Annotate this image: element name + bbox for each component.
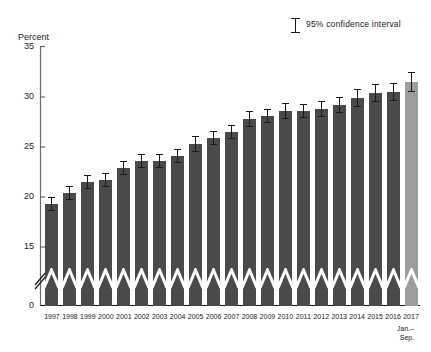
error-bar-1997 — [48, 197, 55, 211]
x-tick-2004: 2004 — [170, 313, 186, 320]
y-tick-35: 35 — [12, 41, 34, 51]
axis-break-zigzag — [332, 268, 347, 292]
axis-break-zigzag — [206, 268, 221, 292]
axis-break-zigzag — [260, 268, 275, 292]
axis-break-zigzag — [188, 268, 203, 292]
error-bar-2003 — [156, 154, 163, 168]
axis-break-zigzag — [170, 268, 185, 292]
axis-break-zigzag — [152, 268, 167, 292]
y-tick-25: 25 — [12, 141, 34, 151]
error-bar-2001 — [120, 161, 127, 175]
x-tick-2007: 2007 — [224, 313, 240, 320]
error-bar-2016 — [390, 83, 397, 101]
x-tick-2016: 2016 — [385, 313, 401, 320]
x-tick-2000: 2000 — [98, 313, 114, 320]
y-tick-0: 0 — [12, 300, 34, 310]
x-axis-sublabel: Jan.– Sep. — [397, 324, 414, 342]
error-bar-2008 — [246, 111, 253, 127]
x-axis-sublabel-line2: Sep. — [397, 333, 414, 342]
axis-break-zigzag — [134, 268, 149, 292]
error-bar-2006 — [210, 131, 217, 145]
error-bar-1999 — [84, 175, 91, 189]
y-tick-30: 30 — [12, 91, 34, 101]
x-tick-2005: 2005 — [188, 313, 204, 320]
x-tick-2001: 2001 — [116, 313, 132, 320]
axis-break-zigzag — [314, 268, 329, 292]
axis-break-zigzag — [98, 268, 113, 292]
x-tick-2013: 2013 — [331, 313, 347, 320]
x-tick-2012: 2012 — [313, 313, 329, 320]
error-bar-2014 — [354, 89, 361, 107]
axis-break-zigzag — [278, 268, 293, 292]
chart-canvas: Percent 95% confidence interval 01520253… — [0, 0, 431, 352]
x-tick-1998: 1998 — [62, 313, 78, 320]
x-tick-2008: 2008 — [242, 313, 258, 320]
axis-break-zigzag — [404, 268, 419, 292]
axis-break-zigzag — [224, 268, 239, 292]
x-tick-2003: 2003 — [152, 313, 168, 320]
y-tick-15: 15 — [12, 241, 34, 251]
x-tick-1999: 1999 — [80, 313, 96, 320]
error-bar-2010 — [282, 103, 289, 119]
error-bar-2002 — [138, 154, 145, 168]
error-bar-2004 — [174, 149, 181, 163]
x-tick-1997: 1997 — [44, 313, 60, 320]
x-tick-2006: 2006 — [206, 313, 222, 320]
error-bar-2000 — [102, 173, 109, 187]
x-tick-2014: 2014 — [349, 313, 365, 320]
x-tick-2009: 2009 — [260, 313, 276, 320]
axis-break-zigzag — [242, 268, 257, 292]
axis-break-zigzag — [62, 268, 77, 292]
axis-break-zigzag — [80, 268, 95, 292]
x-tick-2002: 2002 — [134, 313, 150, 320]
error-bar-2005 — [192, 136, 199, 152]
axis-break-zigzag — [368, 268, 383, 292]
error-bar-2017 — [408, 72, 415, 92]
axis-break-zigzag — [350, 268, 365, 292]
error-bar-2007 — [228, 125, 235, 139]
error-bar-2011 — [300, 104, 307, 118]
error-bar-2012 — [318, 101, 325, 117]
x-tick-2011: 2011 — [296, 313, 311, 320]
x-tick-2015: 2015 — [367, 313, 383, 320]
axis-break-zigzag — [44, 268, 59, 292]
error-bar-2013 — [336, 97, 343, 113]
x-tick-2017: 2017 — [403, 313, 419, 320]
y-tick-20: 20 — [12, 191, 34, 201]
error-bar-1998 — [66, 186, 73, 200]
axis-break-zigzag — [116, 268, 131, 292]
axis-break-zigzag — [296, 268, 311, 292]
x-axis-sublabel-line1: Jan.– — [397, 324, 414, 333]
axis-break-zigzag — [386, 268, 401, 292]
error-bar-2009 — [264, 109, 271, 123]
error-bar-2015 — [372, 84, 379, 102]
x-tick-2010: 2010 — [278, 313, 294, 320]
